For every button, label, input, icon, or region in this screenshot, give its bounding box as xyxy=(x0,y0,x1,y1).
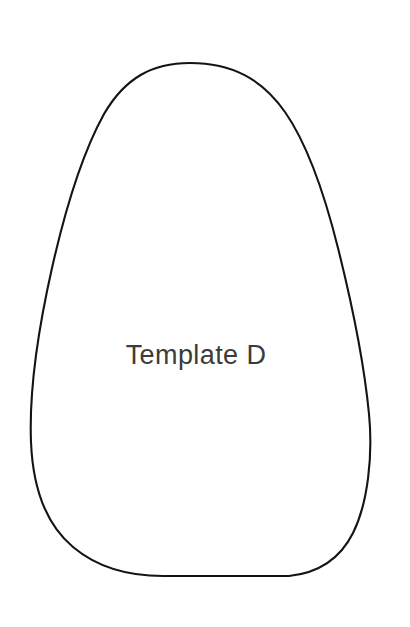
template-canvas: Template D xyxy=(0,0,410,627)
template-label: Template D xyxy=(126,340,267,370)
template-shape-svg: Template D xyxy=(0,0,410,627)
template-outline-path xyxy=(31,63,371,576)
